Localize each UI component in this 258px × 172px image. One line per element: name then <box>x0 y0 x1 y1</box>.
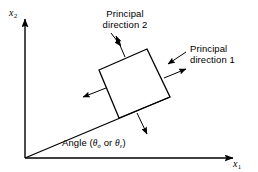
theta-sigma-sub: σ <box>98 142 101 149</box>
stress-arrow-bottom <box>137 113 147 134</box>
stress-arrow-left <box>83 88 106 97</box>
x-axis-label-sub: 1 <box>238 163 242 171</box>
theta-epsilon-sub: ε <box>120 142 123 149</box>
x-axis-label-base: x <box>233 158 237 169</box>
x-axis-label: x1 <box>233 158 241 169</box>
principal-direction-2-line2: direction 2 <box>88 19 162 30</box>
principal-direction-1-label: Principal direction 1 <box>190 43 254 65</box>
theta-sigma-symbol: θσ <box>93 138 101 148</box>
principal-direction-1-line1: Principal <box>190 43 254 54</box>
principal-direction-2-line1: Principal <box>88 8 162 19</box>
y-axis-label-sub: 2 <box>14 12 18 20</box>
y-axis-label: x2 <box>9 7 17 18</box>
stress-arrow-top <box>116 36 125 57</box>
angle-label-prefix: Angle ( <box>62 137 93 148</box>
angle-label: Angle (θσ or θε) <box>62 137 126 149</box>
theta-epsilon-symbol: θε <box>115 138 122 148</box>
principal-direction-2-label: Principal direction 2 <box>88 8 162 30</box>
theta-sigma-base: θ <box>93 138 98 148</box>
leader-principal-direction-2 <box>111 33 121 46</box>
y-axis-label-base: x <box>9 7 13 18</box>
stress-element-square <box>99 49 170 118</box>
angle-label-conjunction: or <box>101 137 115 148</box>
stress-arrow-right <box>164 69 186 78</box>
leader-principal-direction-1 <box>168 52 186 64</box>
principal-directions-diagram: x2 x1 Principal direction 2 Principal di… <box>0 0 258 172</box>
principal-direction-1-line2: direction 1 <box>190 54 254 65</box>
